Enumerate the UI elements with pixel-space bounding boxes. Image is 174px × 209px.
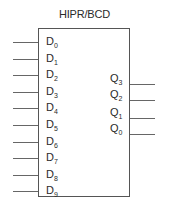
input-line-d6 xyxy=(13,142,38,143)
input-label-d3: D3 xyxy=(46,86,58,101)
input-label-d0: D0 xyxy=(46,36,58,51)
input-line-d1 xyxy=(13,59,38,60)
output-line-q0 xyxy=(130,134,155,135)
input-line-d5 xyxy=(13,125,38,126)
output-line-q2 xyxy=(130,100,155,101)
input-line-d2 xyxy=(13,75,38,76)
input-label-d7: D7 xyxy=(46,152,58,167)
input-label-d5: D5 xyxy=(46,119,58,134)
input-line-d8 xyxy=(13,175,38,176)
output-label-q2: Q2 xyxy=(110,89,122,104)
output-label-q1: Q1 xyxy=(110,107,122,122)
input-line-d0 xyxy=(13,42,38,43)
input-label-d4: D4 xyxy=(46,102,58,117)
input-line-d3 xyxy=(13,92,38,93)
output-label-q3: Q3 xyxy=(110,73,122,88)
input-label-d8: D8 xyxy=(46,169,58,184)
output-label-q0: Q0 xyxy=(110,123,122,138)
input-label-d1: D1 xyxy=(46,53,58,68)
input-label-d2: D2 xyxy=(46,69,58,84)
input-label-d9: D9 xyxy=(46,185,58,200)
input-line-d4 xyxy=(13,108,38,109)
input-label-d6: D6 xyxy=(46,136,58,151)
output-line-q3 xyxy=(130,84,155,85)
input-line-d9 xyxy=(13,191,38,192)
output-line-q1 xyxy=(130,118,155,119)
input-line-d7 xyxy=(13,158,38,159)
block-title: HIPR/BCD xyxy=(38,8,131,20)
